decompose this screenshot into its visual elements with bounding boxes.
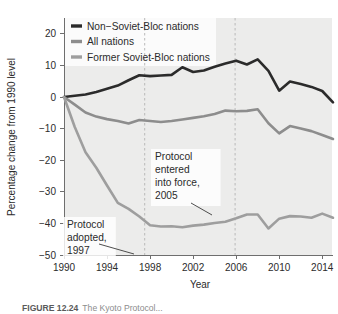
annotation-line: Protocol xyxy=(67,219,104,230)
legend-label-1: All nations xyxy=(87,36,134,47)
annotation-line: entered xyxy=(155,164,190,175)
annotation-line: 2005 xyxy=(155,190,178,201)
x-tick-label: 2002 xyxy=(182,262,205,273)
y-tick-label: 10 xyxy=(45,60,57,71)
y-tick-label: −20 xyxy=(39,155,56,166)
legend-label-2: Former Soviet-Bloc nations xyxy=(87,52,210,63)
x-tick-label: 2006 xyxy=(225,262,248,273)
y-axis-title: Percentage change from 1990 level xyxy=(6,58,17,216)
annotation-line: Protocol xyxy=(155,151,192,162)
x-tick-label: 1994 xyxy=(96,262,119,273)
y-tick-label: −50 xyxy=(39,250,56,261)
annotation-line: 1997 xyxy=(67,245,90,256)
legend-label-0: Non−Soviet-Bloc nations xyxy=(87,21,199,32)
annotation-line: adopted, xyxy=(67,232,107,243)
y-tick-label: −10 xyxy=(39,123,56,134)
x-tick-label: 2010 xyxy=(268,262,291,273)
x-tick-label: 2014 xyxy=(311,262,334,273)
figure-caption: FIGURE 12.24The Kyoto Protocol... xyxy=(22,303,163,313)
y-axis-ticks: 20100−10−20−30−40−50 xyxy=(39,28,64,260)
y-tick-label: −40 xyxy=(39,218,56,229)
y-tick-label: 20 xyxy=(45,28,57,39)
emissions-line-chart: 20100−10−20−30−40−50 1990199419982002200… xyxy=(0,0,338,314)
y-tick-label: 0 xyxy=(50,92,56,103)
figure-container: 20100−10−20−30−40−50 1990199419982002200… xyxy=(0,0,338,314)
x-axis-title: Year xyxy=(190,279,211,290)
x-tick-label: 1990 xyxy=(53,262,76,273)
x-tick-label: 1998 xyxy=(139,262,162,273)
y-tick-label: −30 xyxy=(39,186,56,197)
annotation-line: into force, xyxy=(155,177,200,188)
